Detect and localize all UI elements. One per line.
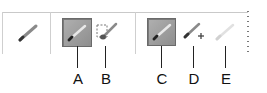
tool-button-a[interactable] bbox=[62, 18, 92, 47]
toolbar-left-edge bbox=[2, 12, 3, 54]
tool-button-d[interactable] bbox=[182, 20, 206, 44]
callout-line-a bbox=[77, 46, 78, 68]
pencil-icon bbox=[151, 22, 173, 42]
callout-label-b: B bbox=[99, 70, 113, 87]
pencil-icon bbox=[17, 23, 39, 43]
callout-label-c: C bbox=[155, 70, 169, 87]
callout-line-c bbox=[161, 46, 162, 68]
pencil-plus-icon bbox=[182, 21, 206, 43]
tool-button-b[interactable] bbox=[95, 20, 119, 44]
toolbar-divider bbox=[50, 12, 51, 54]
pencil-icon bbox=[66, 23, 88, 43]
callout-label-d: D bbox=[187, 70, 201, 87]
callout-line-d bbox=[193, 46, 194, 68]
tool-button-c[interactable] bbox=[147, 18, 176, 46]
pencil-icon bbox=[214, 22, 236, 42]
callout-label-a: A bbox=[71, 70, 85, 87]
brush-selection-icon bbox=[95, 21, 119, 43]
callout-label-e: E bbox=[219, 70, 233, 87]
callout-line-e bbox=[225, 46, 226, 68]
tool-preset-button[interactable] bbox=[16, 22, 40, 44]
callout-line-b bbox=[105, 46, 106, 68]
toolbar-grip-handle[interactable] bbox=[247, 9, 249, 53]
toolbar-divider bbox=[135, 12, 136, 54]
tool-button-e[interactable] bbox=[213, 20, 237, 44]
